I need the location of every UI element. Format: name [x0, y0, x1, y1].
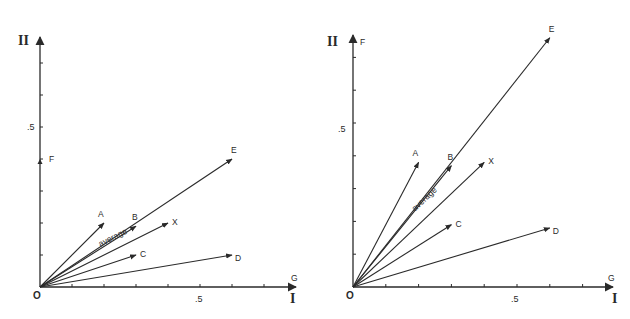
- vector-label-x: X: [172, 217, 178, 227]
- vector-e: [40, 159, 232, 287]
- left-diagram: ABXCDE II I O .5 .5 G F average: [18, 33, 298, 306]
- vector-label-a: A: [98, 209, 104, 219]
- vector-label-d: D: [235, 253, 241, 263]
- x-end-label: G: [608, 273, 615, 283]
- vector-label-a: A: [413, 148, 419, 158]
- origin-label: O: [346, 290, 354, 301]
- vector-label-b: B: [132, 212, 138, 222]
- y-axis-label: II: [327, 34, 338, 49]
- vector-c: [353, 225, 451, 287]
- vector-x: [353, 162, 484, 287]
- x-tick-label: .5: [511, 294, 519, 304]
- vector-d: [353, 228, 550, 287]
- y-marker-label: F: [49, 154, 54, 164]
- vector-x: [40, 223, 168, 287]
- x-axis-label: I: [612, 291, 617, 306]
- vector-diagram-canvas: ABXCDE II I O .5 .5 G F average ABXCDE I…: [0, 0, 630, 319]
- vector-e: [353, 38, 550, 287]
- origin-label: O: [33, 290, 41, 301]
- vectors: ABXCDE: [40, 145, 241, 287]
- x-end-label: G: [291, 273, 298, 283]
- vector-label-c: C: [140, 249, 146, 259]
- vector-label-e: E: [231, 145, 237, 155]
- x-axis-label: I: [290, 291, 295, 306]
- y-axis-label: II: [18, 33, 29, 48]
- vector-d: [40, 255, 232, 287]
- vector-label-x: X: [488, 156, 494, 166]
- x-tick-label: .5: [195, 294, 203, 304]
- vectors: ABXCDE: [353, 24, 559, 287]
- vector-a: [353, 162, 419, 287]
- axis-ticks: [38, 63, 265, 287]
- y-tick-label: .5: [338, 124, 346, 134]
- vector-label-c: C: [455, 219, 461, 229]
- right-diagram: ABXCDE II I O .5 .5 G F average: [327, 24, 617, 306]
- y-tick-label: .5: [27, 122, 35, 132]
- vector-c: [40, 255, 136, 287]
- y-marker-label: F: [360, 37, 365, 47]
- vector-label-d: D: [553, 226, 559, 236]
- f-marker-arrow-icon: [38, 159, 43, 164]
- vector-label-e: E: [549, 24, 555, 34]
